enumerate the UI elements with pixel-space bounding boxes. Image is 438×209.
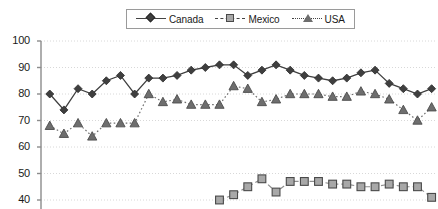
data-point-usa	[314, 89, 323, 97]
data-point-usa	[427, 103, 436, 111]
data-point-canada	[329, 77, 337, 85]
legend-label: USA	[325, 14, 345, 25]
data-point-usa	[271, 95, 280, 103]
data-point-usa	[342, 92, 351, 100]
data-point-canada	[74, 85, 82, 93]
series-usa	[45, 81, 436, 140]
legend-entry-usa[interactable]: USA	[292, 13, 345, 25]
data-point-canada	[413, 90, 421, 98]
data-point-canada	[201, 64, 209, 72]
legend-entry-canada[interactable]: Canada	[136, 13, 203, 25]
data-point-usa	[73, 118, 82, 126]
data-point-usa	[187, 100, 196, 108]
data-point-canada	[399, 85, 407, 93]
data-point-usa	[229, 81, 238, 89]
data-point-canada	[343, 74, 351, 82]
data-point-usa	[413, 116, 422, 124]
data-point-usa	[59, 129, 68, 137]
diamond-marker-icon	[146, 13, 156, 23]
plot-area	[0, 0, 438, 209]
data-point-canada	[300, 71, 308, 79]
data-point-mexico	[385, 180, 393, 188]
line-chart: CanadaMexicoUSA 100908070605040	[0, 0, 438, 209]
legend-label: Mexico	[248, 14, 279, 25]
data-point-mexico	[230, 191, 238, 199]
data-point-mexico	[286, 178, 294, 186]
data-point-canada	[428, 85, 436, 93]
legend-label: Canada	[169, 14, 203, 25]
data-point-mexico	[357, 183, 365, 191]
data-point-canada	[258, 66, 266, 74]
series-canada	[46, 61, 436, 114]
data-point-mexico	[315, 178, 323, 186]
chart-legend: CanadaMexicoUSA	[126, 9, 355, 29]
data-point-usa	[144, 89, 153, 97]
data-point-usa	[172, 95, 181, 103]
data-point-usa	[130, 118, 139, 126]
data-point-canada	[159, 74, 167, 82]
data-point-mexico	[428, 193, 436, 201]
data-point-mexico	[343, 180, 351, 188]
data-point-canada	[357, 69, 365, 77]
data-point-mexico	[244, 183, 252, 191]
data-point-mexico	[272, 188, 280, 196]
data-point-usa	[45, 121, 54, 129]
data-point-usa	[102, 118, 111, 126]
legend-swatch-canada	[136, 13, 166, 25]
data-point-usa	[399, 105, 408, 113]
data-point-usa	[385, 95, 394, 103]
triangle-marker-icon	[303, 14, 313, 22]
data-point-mexico	[329, 180, 337, 188]
grid-lines	[41, 41, 437, 200]
data-point-mexico	[258, 175, 266, 183]
legend-entry-mexico[interactable]: Mexico	[215, 13, 279, 25]
data-point-mexico	[414, 183, 422, 191]
legend-swatch-mexico	[215, 13, 245, 25]
data-point-mexico	[371, 183, 379, 191]
square-marker-icon	[226, 14, 234, 22]
data-point-canada	[215, 61, 223, 69]
data-point-usa	[243, 84, 252, 92]
data-point-canada	[173, 71, 181, 79]
data-point-canada	[314, 74, 322, 82]
data-point-usa	[257, 97, 266, 105]
data-point-usa	[356, 87, 365, 95]
data-point-mexico	[300, 178, 308, 186]
data-point-usa	[116, 118, 125, 126]
y-axis	[37, 41, 41, 209]
legend-swatch-usa	[292, 13, 322, 25]
data-point-mexico	[216, 196, 224, 204]
data-point-mexico	[399, 183, 407, 191]
